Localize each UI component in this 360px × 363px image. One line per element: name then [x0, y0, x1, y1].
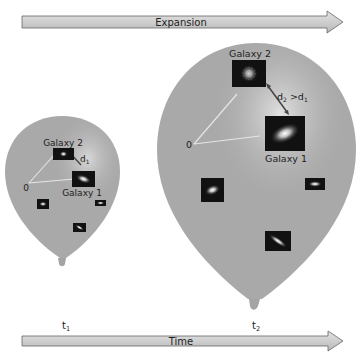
galaxy-2-label-large: Galaxy 2 — [229, 48, 271, 59]
time-arrow: Time — [22, 331, 343, 351]
galaxy-1-small — [72, 171, 95, 187]
galaxy-1-label-large: Galaxy 1 — [265, 153, 307, 164]
balloon-expansion-diagram: Expansion Galaxy 2 d1 Galaxy 1 0 — [0, 0, 360, 363]
time-point-t2: t2 — [252, 320, 260, 333]
origin-label-large: 0 — [186, 139, 192, 150]
galaxy-1-label-small: Galaxy 1 — [62, 188, 102, 198]
galaxy-large-a — [201, 178, 224, 202]
balloon-large-knot — [249, 299, 260, 310]
expansion-arrow: Expansion — [22, 11, 343, 33]
time-point-t1: t1 — [62, 320, 70, 333]
galaxy-large-c — [265, 231, 291, 251]
galaxy-small-c — [73, 223, 86, 232]
galaxy-2-large — [232, 60, 266, 87]
balloon-small: Galaxy 2 d1 Galaxy 1 0 — [5, 116, 120, 266]
galaxy-1-large — [265, 116, 305, 151]
galaxy-small-b — [95, 200, 106, 206]
galaxy-large-b — [305, 178, 325, 190]
galaxy-2-small — [53, 148, 74, 160]
balloon-large: Galaxy 2 d2 >d1 Galaxy 1 0 — [157, 43, 356, 310]
time-label: Time — [168, 336, 193, 347]
galaxy-2-label-small: Galaxy 2 — [43, 138, 83, 148]
expansion-label: Expansion — [155, 17, 207, 28]
distance-label-d2-gt-d1: d2 >d1 — [277, 91, 308, 103]
balloon-small-knot — [58, 258, 66, 266]
origin-label-small: 0 — [23, 183, 29, 193]
galaxy-small-a — [37, 199, 49, 209]
